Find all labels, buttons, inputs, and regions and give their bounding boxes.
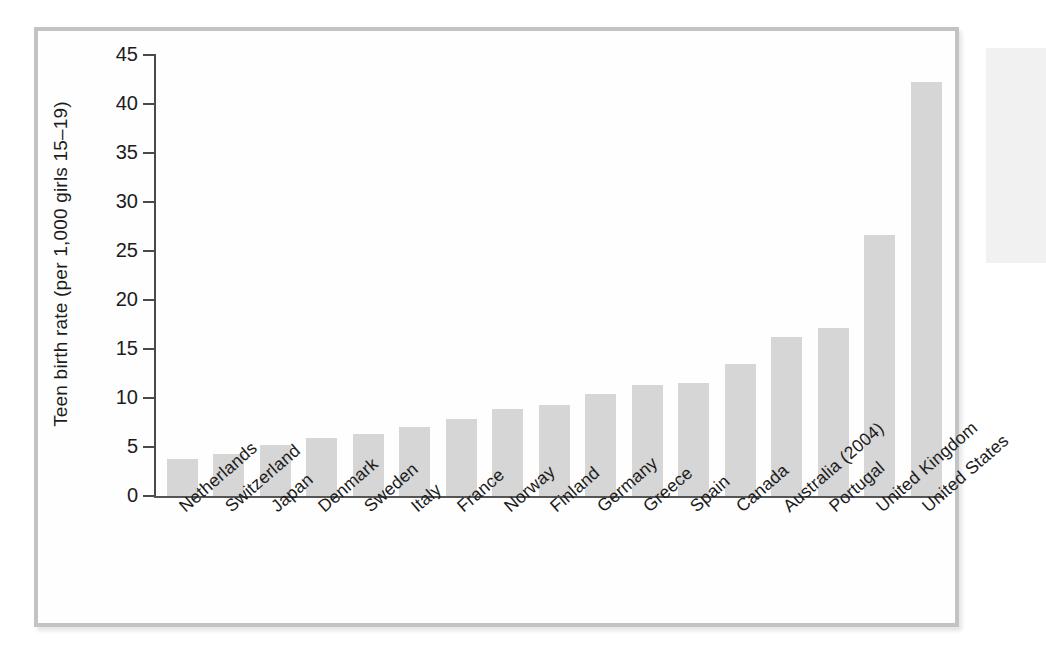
- bar: [911, 82, 942, 496]
- chart-figure-frame: Teen birth rate (per 1,000 girls 15–19) …: [34, 27, 959, 627]
- bar: [725, 364, 756, 496]
- y-axis-tick-label: 35: [94, 142, 138, 162]
- y-axis-tick-label: 10: [94, 387, 138, 407]
- y-axis-tick-label: 45: [94, 44, 138, 64]
- plot-area: Teen birth rate (per 1,000 girls 15–19) …: [38, 31, 955, 623]
- y-axis-tick-label: 5: [94, 436, 138, 456]
- y-axis-tick-label: 40: [94, 93, 138, 113]
- y-axis-tick-label: 25: [94, 240, 138, 260]
- bar: [864, 235, 895, 496]
- scan-artifact: [986, 48, 1046, 263]
- bars-layer: [154, 55, 944, 496]
- y-axis-tick-label: 30: [94, 191, 138, 211]
- x-axis-tick-labels: NetherlandsSwitzerlandJapanDenmarkSweden…: [154, 501, 954, 621]
- y-axis-tick-label: 20: [94, 289, 138, 309]
- y-axis-tick-label: 0: [94, 485, 138, 505]
- y-axis-title: Teen birth rate (per 1,000 girls 15–19): [50, 29, 72, 499]
- y-axis-tick-label: 15: [94, 338, 138, 358]
- y-axis-tick-labels: 051015202530354045: [82, 31, 138, 501]
